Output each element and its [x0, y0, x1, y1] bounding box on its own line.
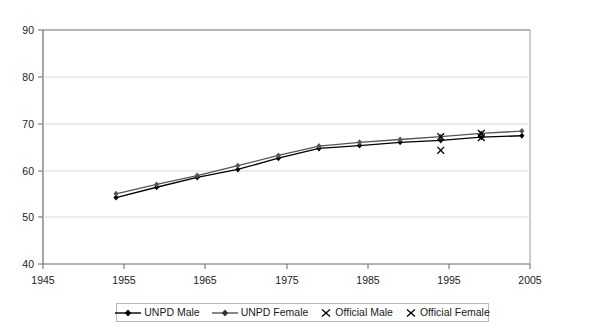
legend-label: Official Female [420, 307, 490, 318]
legend-label: UNPD Female [241, 307, 309, 318]
legend-label: Official Male [335, 307, 393, 318]
x-marker-icon [405, 308, 417, 318]
legend-item-official-female[interactable]: Official Female [405, 307, 490, 318]
chart-plot-area: 90 80 70 60 50 40 1945 1955 1965 1975 19… [0, 0, 606, 335]
x-marker-icon [320, 308, 332, 318]
legend-item-official-male[interactable]: Official Male [320, 307, 393, 318]
legend-item-unpd-female[interactable]: UNPD Female [212, 307, 309, 318]
y-axis-tick-label: 60 [22, 165, 34, 177]
y-axis-tick-label: 50 [22, 211, 34, 223]
x-axis-tick-label: 1955 [112, 274, 136, 286]
x-axis-tick-label: 1995 [437, 274, 461, 286]
line-diamond-icon [212, 308, 238, 318]
y-axis-tick-label: 70 [22, 118, 34, 130]
line-diamond-icon [115, 308, 141, 318]
chart-legend: UNPD Male UNPD Female Official Male Offi… [116, 303, 489, 322]
x-tick-marks [43, 264, 530, 269]
plot-frame [43, 30, 530, 264]
series-unpd-male [113, 133, 524, 201]
x-axis-tick-label: 1945 [31, 274, 55, 286]
legend-item-unpd-male[interactable]: UNPD Male [115, 307, 199, 318]
y-tick-marks [38, 30, 43, 264]
x-axis-tick-label: 1965 [193, 274, 217, 286]
x-axis-tick-label: 2005 [518, 274, 542, 286]
y-axis-tick-label: 80 [22, 71, 34, 83]
legend-label: UNPD Male [144, 307, 199, 318]
y-axis-tick-label: 90 [22, 24, 34, 36]
x-axis-tick-label: 1985 [356, 274, 380, 286]
data-series-layer [113, 128, 524, 200]
y-axis-tick-label: 40 [22, 258, 34, 270]
chart-container: 90 80 70 60 50 40 1945 1955 1965 1975 19… [0, 0, 606, 335]
x-axis-tick-label: 1975 [275, 274, 299, 286]
